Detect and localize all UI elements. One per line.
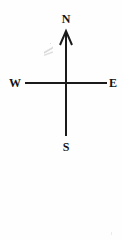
south-label: S [54, 141, 78, 153]
east-label: E [103, 77, 122, 89]
west-label: W [4, 77, 26, 89]
compass-drawing [0, 0, 122, 240]
north-label: N [54, 13, 78, 25]
compass-rose-figure: N S W E [0, 0, 122, 240]
